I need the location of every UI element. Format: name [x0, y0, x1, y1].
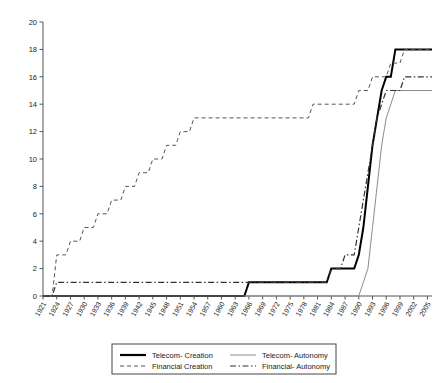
y-axis-tick-label: 10 — [29, 155, 37, 164]
y-axis-tick-label: 2 — [33, 264, 37, 273]
x-axis-tick-label: 1996 — [377, 300, 391, 317]
y-axis-tick-label: 16 — [29, 73, 37, 82]
series-layer — [43, 49, 432, 296]
x-axis-tick-label: 1957 — [198, 300, 212, 317]
x-axis-tick-label: 1984 — [322, 300, 336, 317]
legend-label: Telecom- Creation — [152, 351, 213, 360]
x-axis-tick-label: 1939 — [116, 300, 130, 317]
legend-label: Financial- Autonomy — [262, 362, 330, 371]
x-axis-tick-label: 1963 — [226, 300, 240, 317]
x-axis-tick-label: 1921 — [34, 300, 48, 317]
x-axis-tick-label: 1966 — [239, 300, 253, 317]
x-axis-tick-label: 1972 — [267, 300, 281, 317]
x-axis-tick-label: 1981 — [308, 300, 322, 317]
chart-legend: Telecom- CreationTelecom- AutonomyFinanc… — [112, 344, 336, 374]
x-axis-tick-label: 1933 — [88, 300, 102, 317]
x-axis: 1921192419271930193319361939194219451948… — [34, 296, 432, 317]
x-axis-tick-label: 1987 — [336, 300, 350, 317]
y-axis-tick-label: 8 — [33, 182, 37, 191]
x-axis-tick-label: 1927 — [61, 300, 75, 317]
x-axis-tick-label: 1993 — [363, 300, 377, 317]
legend-label: Financial Creation — [152, 362, 212, 371]
y-axis-tick-label: 6 — [33, 210, 37, 219]
x-axis-tick-label: 1975 — [281, 300, 295, 317]
series-line — [43, 91, 432, 297]
legend-label: Telecom- Autonomy — [262, 351, 328, 360]
x-axis-tick-label: 1999 — [390, 300, 404, 317]
series-line — [43, 49, 432, 296]
x-axis-tick-label: 1942 — [130, 300, 144, 317]
series-line — [43, 49, 432, 296]
x-axis-tick-label: 2005 — [418, 300, 432, 317]
x-axis-tick-label: 1960 — [212, 300, 226, 317]
y-axis-tick-label: 14 — [29, 100, 37, 109]
x-axis-tick-label: 2002 — [404, 300, 418, 317]
x-axis-tick-label: 1930 — [75, 300, 89, 317]
x-axis-tick-label: 1945 — [143, 300, 157, 317]
x-axis-tick-label: 1951 — [171, 300, 185, 317]
x-axis-tick-label: 1978 — [294, 300, 308, 317]
x-axis-tick-label: 1936 — [102, 300, 116, 317]
y-axis-tick-label: 18 — [29, 45, 37, 54]
y-axis-tick-label: 4 — [33, 237, 37, 246]
y-axis-tick-label: 12 — [29, 127, 37, 136]
x-axis-tick-label: 1990 — [349, 300, 363, 317]
series-line — [43, 77, 432, 296]
line-chart: 02468101214161820 1921192419271930193319… — [0, 0, 447, 383]
x-axis-tick-label: 1948 — [157, 300, 171, 317]
y-axis: 02468101214161820 — [29, 18, 43, 301]
y-axis-tick-label: 0 — [33, 292, 37, 301]
x-axis-tick-label: 1969 — [253, 300, 267, 317]
x-axis-tick-label: 1924 — [47, 300, 61, 317]
chart-container: 02468101214161820 1921192419271930193319… — [0, 0, 447, 383]
x-axis-tick-label: 1954 — [185, 300, 199, 317]
y-axis-tick-label: 20 — [29, 18, 37, 27]
